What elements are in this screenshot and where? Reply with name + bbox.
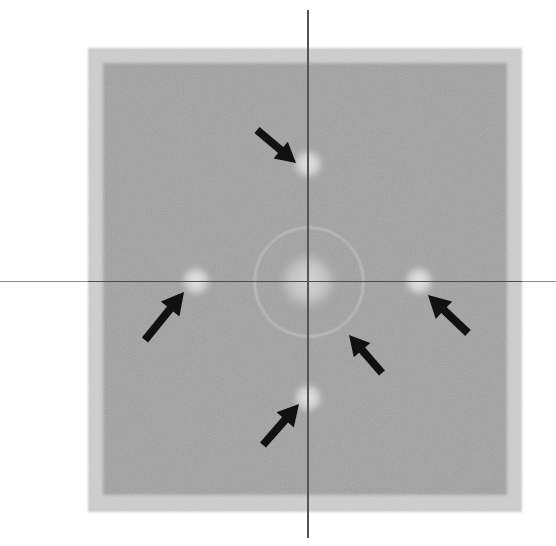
vertical-reference-line [307, 10, 309, 538]
horizontal-reference-line-inside [88, 281, 522, 282]
diffraction-image-canvas [0, 0, 556, 546]
